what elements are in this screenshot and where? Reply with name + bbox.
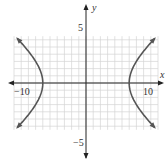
x-tick-label-neg10: −10 xyxy=(14,86,30,97)
hyperbola-graph: y x −10 10 5 −5 xyxy=(0,0,168,161)
x-axis-left-arrow-icon xyxy=(8,81,14,86)
y-axis-down-arrow-icon xyxy=(84,153,89,159)
x-axis-label: x xyxy=(159,69,165,80)
y-tick-label-5: 5 xyxy=(78,22,83,33)
x-axis-right-arrow-icon xyxy=(158,81,164,86)
y-axis-label: y xyxy=(91,2,97,13)
y-axis-up-arrow-icon xyxy=(84,4,89,10)
axes xyxy=(8,4,164,159)
y-tick-label-neg5: −5 xyxy=(73,137,84,148)
x-tick-label-10: 10 xyxy=(143,86,153,97)
